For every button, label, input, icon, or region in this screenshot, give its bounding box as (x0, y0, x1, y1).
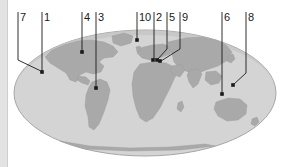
callout-2-endpoint-dot (151, 58, 155, 62)
world-map-figure: 71431025968 (0, 0, 287, 167)
callout-3-endpoint-dot (94, 86, 98, 90)
callout-1-endpoint-dot (40, 70, 44, 74)
world-map-svg (0, 0, 287, 167)
callout-9-label: 9 (182, 12, 188, 23)
callout-6-label: 6 (224, 12, 230, 23)
callout-7-label: 7 (20, 12, 26, 23)
callout-8-label: 8 (248, 12, 254, 23)
callout-9-endpoint-dot (158, 59, 162, 63)
callout-5-label: 5 (169, 12, 175, 23)
callout-6-endpoint-dot (220, 92, 224, 96)
callout-8-endpoint-dot (231, 83, 235, 87)
callout-1-label: 1 (44, 12, 50, 23)
callout-10-label: 10 (139, 12, 151, 23)
callout-4-endpoint-dot (80, 50, 84, 54)
callout-2-label: 2 (156, 12, 162, 23)
callout-3-label: 3 (98, 12, 104, 23)
callout-4-label: 4 (84, 12, 90, 23)
callout-10-endpoint-dot (135, 38, 139, 42)
